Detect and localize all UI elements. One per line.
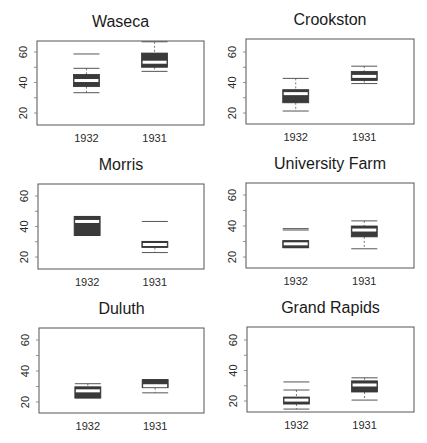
panel-crookston: Crookston20406019321931 (226, 11, 414, 143)
x-tick-label: 1931 (352, 275, 376, 287)
x-tick-label: 1932 (283, 131, 307, 143)
median-line (352, 75, 376, 78)
y-tick-label: 40 (18, 220, 30, 232)
box-1932 (74, 216, 100, 235)
x-tick-label: 1932 (74, 132, 98, 144)
median-line (353, 383, 377, 386)
box-1932 (283, 78, 309, 111)
box-1931 (351, 221, 377, 249)
x-tick-label: 1932 (76, 420, 100, 432)
x-tick-label: 1931 (352, 131, 376, 143)
y-tick-label: 20 (226, 107, 238, 119)
y-tick-label: 20 (18, 251, 30, 263)
iqr-box (142, 53, 168, 67)
y-tick-label: 40 (227, 364, 239, 376)
plot-frame (247, 327, 414, 412)
box-1931 (142, 221, 168, 252)
panel-morris: Morris20406019321931 (18, 156, 204, 288)
y-tick-label: 20 (19, 396, 31, 408)
x-tick-label: 1932 (75, 276, 99, 288)
panel-grand-rapids: Grand Rapids20406019321931 (227, 299, 414, 431)
y-tick-label: 20 (17, 107, 29, 119)
plot-frame (37, 41, 204, 125)
y-tick-label: 60 (18, 190, 30, 202)
y-tick-label: 20 (227, 395, 239, 407)
median-line (352, 229, 376, 232)
median-line (284, 242, 308, 245)
x-tick-label: 1931 (143, 420, 167, 432)
box-1931 (352, 378, 378, 400)
y-tick-label: 60 (17, 46, 29, 58)
box-1931 (142, 42, 168, 72)
panel-title: Morris (99, 156, 143, 173)
y-tick-label: 60 (226, 189, 238, 201)
median-line (143, 61, 167, 64)
y-tick-label: 40 (226, 220, 238, 232)
box-1932 (283, 382, 309, 409)
box-1932 (75, 384, 101, 398)
box-1932 (283, 229, 309, 248)
panel-title: Crookston (294, 11, 367, 28)
median-line (76, 389, 100, 392)
median-line (74, 79, 98, 82)
median-line (143, 384, 167, 387)
x-tick-label: 1931 (143, 276, 167, 288)
iqr-box (283, 90, 309, 103)
panel-duluth: Duluth20406019321931 (19, 300, 204, 432)
boxplot-grid: Waseca20406019321931Crookston20406019321… (0, 0, 427, 443)
panel-title: University Farm (274, 155, 386, 172)
box-1931 (351, 66, 377, 83)
panel-waseca: Waseca20406019321931 (17, 13, 204, 144)
box-1931 (142, 380, 168, 393)
x-tick-label: 1932 (284, 419, 308, 431)
panel-title: Duluth (98, 300, 144, 317)
box-1932 (73, 54, 99, 93)
panel-university-farm: University Farm20406019321931 (226, 155, 414, 287)
median-line (75, 220, 99, 223)
median-line (284, 92, 308, 95)
y-tick-label: 40 (226, 76, 238, 88)
x-tick-label: 1932 (283, 275, 307, 287)
median-line (284, 399, 308, 402)
panel-title: Grand Rapids (281, 299, 380, 316)
plot-frame (246, 183, 414, 268)
x-tick-label: 1931 (352, 419, 376, 431)
x-tick-label: 1931 (142, 132, 166, 144)
y-tick-label: 40 (17, 76, 29, 88)
y-tick-label: 40 (19, 365, 31, 377)
y-tick-label: 60 (226, 46, 238, 58)
panel-title: Waseca (92, 13, 149, 30)
y-tick-label: 20 (226, 251, 238, 263)
y-tick-label: 60 (19, 334, 31, 346)
plot-frame (39, 328, 204, 413)
plot-frame (246, 39, 414, 124)
y-tick-label: 60 (227, 334, 239, 346)
plot-frame (38, 184, 204, 269)
iqr-box (75, 387, 101, 398)
iqr-box (74, 216, 100, 235)
median-line (143, 243, 167, 246)
